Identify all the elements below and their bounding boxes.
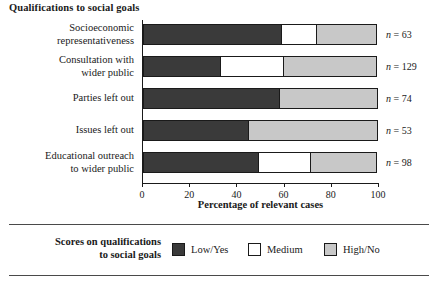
sample-size-symbol: n	[386, 125, 391, 136]
sample-size-label: n = 98	[386, 157, 412, 168]
x-axis-tick	[331, 183, 332, 187]
sample-size-label: n = 74	[386, 93, 412, 104]
bar-row	[143, 120, 379, 141]
legend-title-line: to social goals	[29, 249, 161, 262]
chart-figure: Qualifications to social goals 020406080…	[0, 0, 438, 282]
bar-segment-medium	[281, 24, 316, 45]
legend: Scores on qualificationsto social goals …	[9, 224, 429, 276]
legend-label: Medium	[267, 244, 303, 255]
sample-size-symbol: n	[386, 61, 391, 72]
category-label-line: Consultation with	[0, 54, 134, 67]
x-axis-tick	[284, 183, 285, 187]
legend-label: Low/Yes	[191, 244, 228, 255]
bar-segment-low	[143, 120, 249, 141]
stacked-bar	[143, 56, 379, 77]
sample-size-symbol: n	[386, 29, 391, 40]
category-label-line: Parties left out	[0, 92, 134, 105]
category-label: Parties left out	[0, 92, 134, 105]
sample-size-label: n = 53	[386, 125, 412, 136]
category-label-line: representativeness	[0, 35, 134, 48]
category-label-line: wider public	[0, 67, 134, 80]
stacked-bar	[143, 88, 379, 109]
chart-title: Qualifications to social goals	[9, 2, 139, 13]
category-label: Issues left out	[0, 124, 134, 137]
stacked-bar	[143, 24, 379, 45]
sample-size-label: n = 63	[386, 29, 412, 40]
bar-segment-low	[143, 24, 282, 45]
bar-segment-low	[143, 88, 280, 109]
bar-row	[143, 88, 379, 109]
x-axis-tick	[189, 183, 190, 187]
legend-entry: High/No	[324, 243, 380, 256]
bar-segment-high	[310, 152, 377, 173]
stacked-bar	[143, 120, 379, 141]
category-label: Socioeconomicrepresentativeness	[0, 22, 134, 47]
x-axis-tick	[142, 183, 143, 187]
bar-segment-medium	[258, 152, 311, 173]
sample-size-label: n = 129	[386, 61, 417, 72]
category-label: Consultation withwider public	[0, 54, 134, 79]
bar-segment-high	[316, 24, 377, 45]
legend-title-line: Scores on qualifications	[29, 236, 161, 249]
x-axis-title: Percentage of relevant cases	[142, 199, 379, 210]
legend-swatch	[172, 243, 185, 256]
bar-segment-high	[283, 56, 377, 77]
legend-label: High/No	[343, 244, 380, 255]
category-label-line: to wider public	[0, 163, 134, 176]
bar-segment-medium	[220, 56, 284, 77]
x-axis-tick	[236, 183, 237, 187]
bar-row	[143, 24, 379, 45]
stacked-bar	[143, 152, 379, 173]
category-label-line: Issues left out	[0, 124, 134, 137]
bar-segment-low	[143, 56, 221, 77]
sample-size-symbol: n	[386, 157, 391, 168]
bar-row	[143, 152, 379, 173]
sample-size-symbol: n	[386, 93, 391, 104]
x-axis-line	[142, 183, 379, 184]
legend-swatch	[248, 243, 261, 256]
legend-title: Scores on qualificationsto social goals	[29, 236, 161, 261]
x-axis-tick	[378, 183, 379, 187]
category-label: Educational outreachto wider public	[0, 150, 134, 175]
category-label-line: Socioeconomic	[0, 22, 134, 35]
bar-segment-low	[143, 152, 259, 173]
legend-entry: Low/Yes	[172, 243, 228, 256]
bar-row	[143, 56, 379, 77]
legend-swatch	[324, 243, 337, 256]
plot-area: 020406080100	[142, 20, 378, 183]
category-label-line: Educational outreach	[0, 150, 134, 163]
bar-segment-high	[248, 120, 378, 141]
legend-entry: Medium	[248, 243, 303, 256]
bar-segment-high	[279, 88, 378, 109]
